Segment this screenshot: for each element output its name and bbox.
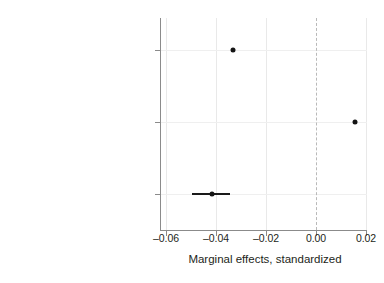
data-point-2 [210, 192, 215, 197]
data-point-0 [230, 48, 235, 53]
x-tick-label-3: 0.00 [306, 232, 326, 244]
gridline-horizontal-1 [160, 122, 367, 123]
x-axis-title: Marginal effects, standardized [160, 253, 370, 265]
x-tick-label-0: –0.06 [153, 232, 179, 244]
marginal-effects-chart: UN ideal point distance Shared democracy… [0, 0, 384, 283]
zero-reference-line [316, 18, 317, 230]
y-tick-1 [155, 122, 160, 123]
gridline-horizontal-0 [160, 50, 367, 51]
x-tick-label-4: 0.02 [356, 232, 376, 244]
x-axis-line [160, 230, 367, 231]
data-point-1 [353, 120, 358, 125]
y-tick-0 [155, 50, 160, 51]
plot-area [160, 18, 370, 231]
x-tick-label-2: –0.02 [253, 232, 279, 244]
y-tick-2 [155, 194, 160, 195]
y-axis-line [160, 18, 161, 231]
x-tick-label-1: –0.04 [203, 232, 229, 244]
